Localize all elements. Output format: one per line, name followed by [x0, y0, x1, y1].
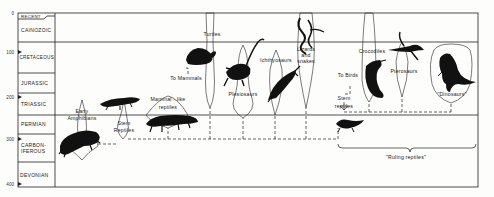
tick-400: 400: [6, 182, 14, 187]
dinosaur-icon: [438, 54, 476, 93]
label-plesiosaurs: Plesiosaurs: [228, 91, 257, 97]
label-ruling-reptiles: "Ruling reptiles": [386, 154, 426, 160]
chart-frame: [18, 13, 478, 187]
turtle-icon: [186, 48, 216, 65]
tick-arrow-icon: [18, 50, 22, 54]
tick-300: 300: [6, 137, 14, 142]
reptile-evolution-diagram: 0 100 200 300 400 RECENT CAINOZOIC CRETA…: [0, 0, 494, 197]
tick-100: 100: [6, 50, 14, 55]
time-axis: 0 100 200 300 400: [6, 11, 22, 187]
ancestry-lines: [98, 68, 451, 144]
label-to-birds: To Birds: [338, 72, 359, 78]
label-ichthyosaurs: Ichthyosaurs: [260, 57, 292, 63]
animal-silhouettes: [59, 18, 476, 157]
ruling-reptiles-brace: [338, 144, 476, 152]
period-devonian: DEVONIAN: [20, 172, 49, 178]
period-cainozoic: CAINOZOIC: [21, 27, 52, 33]
label-stem-reptiles-left-1: Stem: [118, 120, 131, 126]
period-cretaceous: CRETACEOUS: [20, 55, 55, 60]
diagram-canvas: 0 100 200 300 400 RECENT CAINOZOIC CRETA…: [0, 0, 494, 197]
period-labels: RECENT CAINOZOIC CRETACEOUS JURASSIC TRI…: [20, 14, 55, 179]
label-stem-reptiles-right-1: Stem: [338, 95, 351, 101]
crocodile-icon: [365, 60, 386, 98]
label-dinosaurs: "Dinosaurs": [437, 91, 466, 97]
stem-reptile-icon: [100, 97, 140, 110]
early-amphibian-icon: [59, 130, 100, 157]
label-stem-reptiles-left-2: Reptiles: [114, 127, 135, 133]
period-permian: PERMIAN: [21, 121, 46, 127]
label-pterosaurs: Pterosaurs: [390, 68, 417, 74]
label-early-amphibians-2: Amphibians: [67, 115, 96, 121]
label-turtles: Turtles: [203, 31, 220, 37]
tick-arrow-icon: [18, 182, 22, 186]
tick-arrow-icon: [18, 95, 22, 99]
label-stem-reptiles-right-2: reptiles: [335, 103, 354, 109]
pterosaur-icon: [388, 32, 424, 60]
lineage-spindles: [66, 13, 472, 160]
label-lizards-3: snakes: [297, 58, 315, 64]
mammal-like-reptile-icon: [146, 115, 198, 132]
label-crocodiles: Crocodiles: [359, 48, 386, 54]
label-mammal-like-1: Mammal - like: [151, 96, 186, 102]
label-early-amphibians-1: Early: [76, 108, 89, 114]
tick-0: 0: [11, 11, 14, 16]
period-jurassic: JURASSIC: [21, 80, 48, 86]
period-carboniferous-2: IFEROUS: [21, 148, 46, 154]
period-recent: RECENT: [21, 14, 41, 19]
label-mammal-like-2: reptiles: [159, 104, 178, 110]
tick-arrow-icon: [18, 137, 22, 141]
label-to-mammals: To Mammals: [170, 75, 202, 81]
ichthyosaur-icon: [268, 66, 300, 102]
tick-200: 200: [6, 95, 14, 100]
stem-reptile-right-icon: [336, 120, 364, 133]
period-triassic: TRIASSIC: [21, 101, 47, 107]
